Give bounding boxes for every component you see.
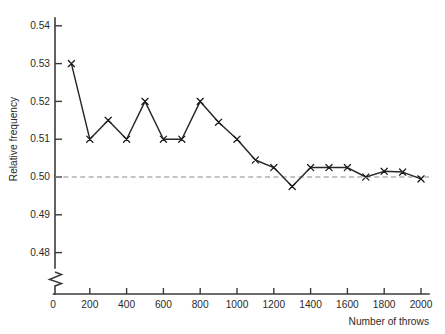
x-axis-ticks: 0 200 400 600 800 1000 1200 1400 1600 18… xyxy=(50,288,432,310)
data-point-marker xyxy=(234,136,240,142)
y-axis-break-icon xyxy=(50,272,62,286)
data-point-marker xyxy=(197,98,203,104)
y-tick-label: 0.48 xyxy=(30,247,50,258)
data-point-marker xyxy=(252,157,258,163)
x-tick-label: 800 xyxy=(192,299,209,310)
x-tick-label: 400 xyxy=(118,299,135,310)
data-point-marker xyxy=(216,119,222,125)
x-tick-label: 0 xyxy=(50,299,56,310)
data-point-marker xyxy=(124,136,130,142)
data-point-marker xyxy=(105,117,111,123)
y-axis-ticks: 0.54 0.53 0.52 0.51 0.50 0.49 0.48 xyxy=(30,20,62,258)
x-tick-label: 600 xyxy=(155,299,172,310)
x-tick-label: 1400 xyxy=(299,299,322,310)
y-tick-label: 0.49 xyxy=(30,209,50,220)
y-axis-title: Relative frequency xyxy=(8,96,19,181)
x-tick-label: 200 xyxy=(81,299,98,310)
chart-page: Relative frequency 0.54 0.53 0.52 0.51 0… xyxy=(0,0,445,334)
y-tick-label: 0.50 xyxy=(30,171,50,182)
x-axis-title: Number of throws xyxy=(349,316,429,327)
y-tick-label: 0.51 xyxy=(30,133,50,144)
relative-frequency-line-chart: Relative frequency 0.54 0.53 0.52 0.51 0… xyxy=(0,0,445,334)
data-point-markers xyxy=(68,61,424,190)
x-tick-label: 2000 xyxy=(410,299,433,310)
x-tick-label: 1200 xyxy=(262,299,285,310)
data-point-marker xyxy=(271,164,277,170)
data-series-line xyxy=(71,64,421,187)
x-tick-label: 1600 xyxy=(336,299,359,310)
y-tick-label: 0.52 xyxy=(30,96,50,107)
x-tick-label: 1800 xyxy=(373,299,396,310)
x-tick-label: 1000 xyxy=(226,299,249,310)
y-tick-label: 0.53 xyxy=(30,58,50,69)
y-tick-label: 0.54 xyxy=(30,20,50,31)
data-point-marker xyxy=(289,183,295,189)
data-point-marker xyxy=(142,98,148,104)
